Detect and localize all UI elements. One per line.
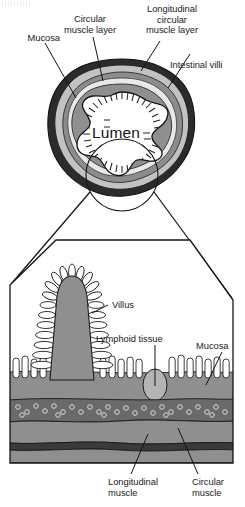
label-circular-muscle-detail: Circular muscle <box>192 477 244 498</box>
intestine-anatomy-figure <box>0 0 245 507</box>
submucosa-band <box>8 399 236 422</box>
scan-artifact <box>2 1 32 6</box>
label-longitudinal-circular-muscle-layer: Longitudinal circular muscle layer <box>127 4 217 36</box>
longitudinal-muscle-band <box>8 449 236 463</box>
label-intestinal-villi: Intestinal villi <box>170 60 245 71</box>
label-lumen: Lumen <box>92 124 140 142</box>
label-circular-muscle-layer: Circular muscle layer <box>46 14 134 35</box>
circular-muscle-band <box>8 420 236 444</box>
label-lymphoid-tissue: Lymphoid tissue <box>96 334 192 345</box>
label-mucosa-detail: Mucosa <box>196 341 244 352</box>
label-longitudinal-muscle: Longitudinal muscle <box>108 477 182 498</box>
label-villus: Villus <box>112 300 160 311</box>
